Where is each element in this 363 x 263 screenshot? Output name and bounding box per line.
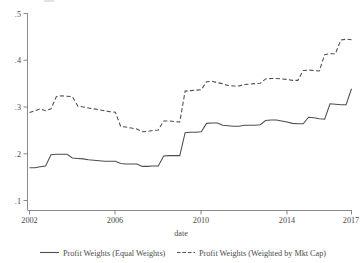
top-crop-artifact bbox=[44, 0, 54, 2]
x-tick-label-2010: 2010 bbox=[193, 216, 209, 225]
y-tick-label-1: .1 bbox=[15, 197, 21, 206]
y-tick-marks bbox=[24, 14, 28, 201]
legend-label-equal-weights: Profit Weights (Equal Weights) bbox=[63, 249, 166, 258]
x-tick-marks bbox=[30, 211, 352, 215]
y-tick-label-4: .4 bbox=[15, 56, 21, 65]
series-line-profit-weights-mkt-cap bbox=[30, 39, 352, 132]
x-tick-label-2014: 2014 bbox=[279, 216, 295, 225]
series-line-profit-weights-equal bbox=[30, 89, 352, 168]
line-chart: .5 .4 .3 .2 .1 2002 2006 2010 2014 2017 … bbox=[0, 0, 363, 263]
legend-label-mkt-cap: Profit Weights (Weighted by Mkt Cap) bbox=[199, 249, 326, 258]
y-tick-label-3: .3 bbox=[15, 103, 21, 112]
chart-figure: .5 .4 .3 .2 .1 2002 2006 2010 2014 2017 … bbox=[0, 0, 363, 263]
x-axis-title: date bbox=[174, 229, 188, 238]
y-tick-label-5: .5 bbox=[15, 10, 21, 19]
x-tick-label-2006: 2006 bbox=[107, 216, 123, 225]
x-tick-label-2002: 2002 bbox=[21, 216, 37, 225]
y-tick-label-2: .2 bbox=[15, 150, 21, 159]
chart-legend: Profit Weights (Equal Weights) Profit We… bbox=[40, 249, 326, 258]
x-tick-label-2017: 2017 bbox=[343, 216, 359, 225]
